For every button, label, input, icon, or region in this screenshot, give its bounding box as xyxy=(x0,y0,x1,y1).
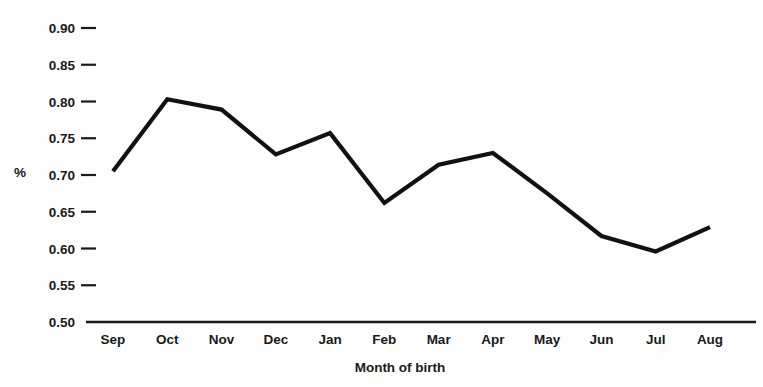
y-axis-label: % xyxy=(14,165,26,180)
x-tick-label: Jan xyxy=(318,332,341,347)
y-tick-label: 0.85 xyxy=(49,58,76,73)
x-tick-label: Jun xyxy=(589,332,613,347)
y-tick-label: 0.90 xyxy=(49,21,75,36)
y-tick-label: 0.50 xyxy=(49,315,75,330)
x-tick-label: Sep xyxy=(101,332,126,347)
x-tick-label: Apr xyxy=(481,332,505,347)
y-tick-label: 0.55 xyxy=(49,278,76,293)
x-tick-label: Aug xyxy=(697,332,723,347)
y-tick-label: 0.80 xyxy=(49,95,75,110)
x-tick-label: Feb xyxy=(372,332,396,347)
x-tick-label: Nov xyxy=(209,332,235,347)
y-tick-label: 0.70 xyxy=(49,168,75,183)
line-chart: 0.900.850.800.750.700.650.600.550.50 % S… xyxy=(0,0,763,387)
x-axis-title: Month of birth xyxy=(355,360,446,375)
x-tick-label: May xyxy=(534,332,561,347)
x-tick-label: Jul xyxy=(646,332,666,347)
x-tick-label: Dec xyxy=(263,332,288,347)
x-tick-label: Mar xyxy=(427,332,452,347)
y-tick-label: 0.60 xyxy=(49,242,75,257)
data-series-line xyxy=(113,99,710,251)
chart-page: 0.900.850.800.750.700.650.600.550.50 % S… xyxy=(0,0,763,387)
y-tick-label: 0.75 xyxy=(49,131,76,146)
y-axis-tick-marks xyxy=(81,28,96,285)
y-axis-tick-labels: 0.900.850.800.750.700.650.600.550.50 xyxy=(49,21,76,330)
x-axis-category-labels: SepOctNovDecJanFebMarAprMayJunJulAug xyxy=(101,332,724,347)
x-tick-label: Oct xyxy=(156,332,179,347)
y-tick-label: 0.65 xyxy=(49,205,76,220)
